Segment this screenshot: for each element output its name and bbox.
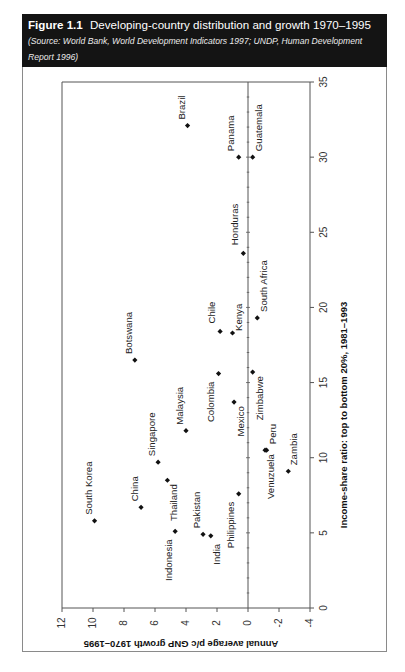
data-point: Venuzuela xyxy=(262,448,276,499)
point-label: Peru xyxy=(267,424,278,444)
point-label: South Korea xyxy=(83,461,94,515)
tick-label: 8 xyxy=(118,620,129,626)
tick-label: 0 xyxy=(318,605,329,611)
point-label: Colombia xyxy=(205,381,216,422)
diamond-marker-icon xyxy=(286,469,291,474)
diamond-marker-icon xyxy=(200,532,205,537)
income-ratio-axis-title: Income-share ratio: top to bottom 20%, 1… xyxy=(338,302,349,528)
point-label: Mexico xyxy=(235,406,246,436)
diamond-marker-icon xyxy=(185,123,190,128)
tick-label: 35 xyxy=(318,76,329,88)
tick-label: 10 xyxy=(318,452,329,464)
data-point: Pakistan xyxy=(191,492,206,537)
point-label: Zimbabwe xyxy=(254,376,265,420)
point-label: Zambia xyxy=(288,433,299,466)
tick-label: 20 xyxy=(318,301,329,313)
plot-area xyxy=(62,82,310,608)
diamond-marker-icon xyxy=(216,371,221,376)
tick-label: 4 xyxy=(180,620,191,626)
data-point: Zimbabwe xyxy=(250,369,265,420)
diamond-marker-icon xyxy=(208,533,213,538)
data-point: Guatemala xyxy=(250,104,264,160)
diamond-marker-icon xyxy=(250,369,255,374)
diamond-marker-icon xyxy=(138,505,143,510)
data-point: Malaysia xyxy=(174,386,189,433)
data-point: Chile xyxy=(206,302,223,334)
data-point: Colombia xyxy=(205,371,222,422)
point-label: South Africa xyxy=(258,260,269,312)
data-point: China xyxy=(129,476,144,510)
growth-axis-title: Annual average p/c GNP growth 1970–1995 xyxy=(83,639,278,650)
diamond-marker-icon xyxy=(156,460,161,465)
tick-label: 15 xyxy=(318,377,329,389)
point-label: Kenya xyxy=(233,303,244,331)
diamond-marker-icon xyxy=(132,357,137,362)
data-point: South Africa xyxy=(255,260,270,321)
data-point: Zambia xyxy=(286,433,300,474)
tick-label: 0 xyxy=(242,620,253,626)
tick-label: 5 xyxy=(318,530,329,536)
tick-label: 6 xyxy=(149,620,160,626)
diamond-marker-icon xyxy=(255,315,260,320)
tick-label: 2 xyxy=(211,620,222,626)
data-point: Philippines xyxy=(225,491,242,548)
point-label: Philippines xyxy=(225,502,236,549)
data-point: Brazil xyxy=(176,96,191,129)
tick-label: 12 xyxy=(56,617,67,629)
data-point: Botswana xyxy=(123,311,138,362)
diamond-marker-icon xyxy=(250,155,255,160)
point-label: Panama xyxy=(225,115,236,151)
diamond-marker-icon xyxy=(165,478,170,483)
data-point: Thailand xyxy=(165,478,180,521)
zero-growth-line xyxy=(246,82,250,608)
tick-label: 25 xyxy=(318,226,329,238)
data-point: India xyxy=(208,533,222,564)
diamond-marker-icon xyxy=(236,155,241,160)
diamond-marker-icon xyxy=(218,329,223,334)
point-label: Guatemala xyxy=(253,104,264,152)
data-point: Honduras xyxy=(229,204,246,256)
data-point: Indonesia xyxy=(163,529,178,581)
point-label: Brazil xyxy=(176,96,187,120)
data-point: Panama xyxy=(225,115,242,160)
point-label: China xyxy=(129,476,140,502)
data-points: BrazilPanamaGuatemalaHondurasSouth Afric… xyxy=(83,96,300,581)
diamond-marker-icon xyxy=(183,428,188,433)
point-label: Singapore xyxy=(146,412,157,456)
tick-label: 10 xyxy=(87,617,98,629)
plot-border xyxy=(62,82,310,608)
point-label: Chile xyxy=(206,302,217,324)
point-label: Thailand xyxy=(168,484,179,521)
point-label: Malaysia xyxy=(174,386,185,425)
scatter-chart: 05101520253035 121086420-2-4 BrazilPanam… xyxy=(0,0,405,672)
data-point: Peru xyxy=(264,424,278,453)
tick-label: -2 xyxy=(273,618,284,627)
tick-label: -4 xyxy=(304,618,315,627)
diamond-marker-icon xyxy=(173,529,178,534)
point-label: Botswana xyxy=(123,311,134,354)
data-point: Kenya xyxy=(230,303,244,335)
point-label: Venuzuela xyxy=(265,454,276,499)
diamond-marker-icon xyxy=(231,400,236,405)
point-label: Indonesia xyxy=(163,539,174,581)
diamond-marker-icon xyxy=(241,251,246,256)
data-point: Singapore xyxy=(146,412,161,464)
income-ratio-axis-ticks: 05101520253035 xyxy=(310,76,329,611)
point-label: Honduras xyxy=(229,204,240,246)
point-label: India xyxy=(211,543,222,564)
point-label: Pakistan xyxy=(191,492,202,529)
data-point: Mexico xyxy=(231,400,246,437)
diamond-marker-icon xyxy=(236,491,241,496)
growth-axis-ticks: 121086420-2-4 xyxy=(56,608,315,629)
tick-label: 30 xyxy=(318,151,329,163)
diamond-marker-icon xyxy=(92,518,97,523)
data-point: South Korea xyxy=(83,461,98,524)
